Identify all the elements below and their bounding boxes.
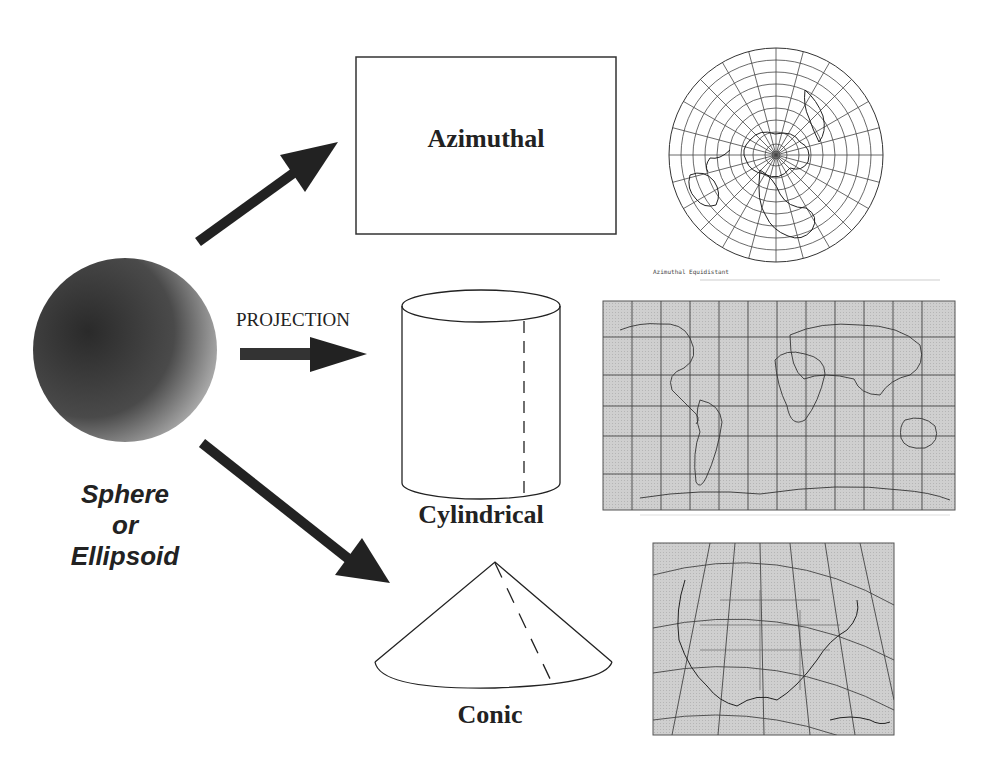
azimuthal-map	[666, 45, 886, 265]
azimuthal-map-caption: Azimuthal Equidistant	[653, 268, 729, 275]
azimuthal-label: Azimuthal	[356, 124, 616, 154]
arrow-to-cylindrical-icon	[240, 337, 367, 372]
cone-shape	[375, 562, 612, 688]
cylinder-shape	[402, 290, 560, 499]
sphere-label-line-2: or	[50, 510, 200, 541]
projection-label: PROJECTION	[236, 309, 350, 331]
sphere-shape	[33, 258, 217, 442]
conic-map	[653, 543, 894, 760]
arrow-to-azimuthal-icon	[198, 142, 338, 242]
conic-label: Conic	[420, 700, 560, 730]
diagram-canvas	[0, 0, 985, 771]
sphere-label-line-1: Sphere	[50, 479, 200, 510]
sphere-label-line-3: Ellipsoid	[50, 541, 200, 572]
arrow-to-conic-icon	[202, 443, 390, 583]
cylindrical-map	[603, 301, 955, 510]
cylindrical-label: Cylindrical	[400, 500, 562, 530]
sphere-label: Sphere or Ellipsoid	[50, 479, 200, 572]
